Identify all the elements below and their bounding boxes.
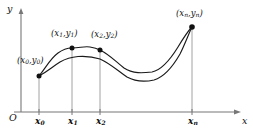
x-axis-arrowhead <box>234 110 241 115</box>
paren-close: ) <box>114 29 117 39</box>
tick-sub: 0 <box>40 119 44 126</box>
data-point-p0 <box>37 74 42 79</box>
x-axis-label: x <box>242 116 247 126</box>
data-point-p1 <box>70 46 75 51</box>
data-point-p2 <box>98 48 103 53</box>
x-tick-label-1: x1 <box>68 117 78 126</box>
origin-label: O <box>9 113 17 123</box>
point-label-p2: (x2,y2) <box>91 30 118 39</box>
x-tick-label-2: x2 <box>96 117 106 126</box>
paren-close: ) <box>40 55 43 65</box>
y-axis-arrowhead <box>19 8 24 14</box>
x-tick-label-n: xn <box>188 117 198 126</box>
paren-close: ) <box>74 28 77 38</box>
point-label-pn: (xn,yn) <box>176 9 203 18</box>
tick-sub: 2 <box>101 119 105 126</box>
paren-close: ) <box>199 8 202 18</box>
x-tick-label-0: x0 <box>35 117 45 126</box>
point-label-p1: (x1,y1) <box>51 29 78 38</box>
y-axis-label: y <box>7 4 12 14</box>
tick-sub: 1 <box>73 119 77 126</box>
tick-sub: n <box>193 119 197 126</box>
data-point-pn <box>189 24 195 30</box>
point-label-p0: (x0,y0) <box>17 56 44 65</box>
figure-container: y x O (x0,y0) (x1,y1) (x2,y2) (xn,yn) x0… <box>0 0 253 139</box>
x-axis <box>14 110 241 115</box>
